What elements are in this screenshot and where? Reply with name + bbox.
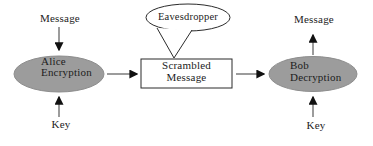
eavesdropper-bubble-tail (157, 28, 192, 58)
alice-key-label: Key (31, 119, 91, 130)
alice-encryption-label: Alice Encryption (41, 56, 92, 78)
bob-decryption-label: Bob Decryption (290, 60, 341, 83)
encryption-flow-diagram: Message Alice Encryption Key Eavesdroppe… (0, 0, 373, 146)
message-output-label: Message (284, 14, 344, 25)
message-input-label: Message (30, 13, 90, 24)
eavesdropper-label: Eavesdropper (146, 11, 230, 22)
scrambled-message-label: Scrambled Message (141, 60, 232, 83)
bob-key-label: Key (286, 120, 346, 131)
